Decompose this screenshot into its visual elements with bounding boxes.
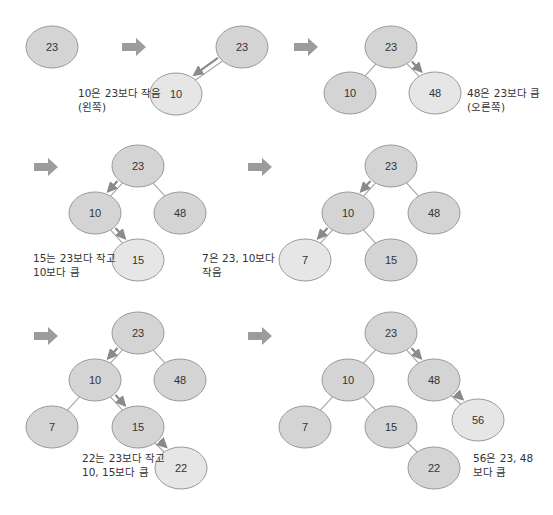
tree-edge	[110, 230, 122, 243]
node-value: 7	[49, 421, 55, 433]
search-path-arrow-icon	[456, 393, 463, 399]
tree-node: 7	[26, 406, 78, 448]
node-value: 23	[385, 160, 397, 172]
tree-edge	[363, 397, 375, 410]
tree-edge	[407, 64, 419, 77]
node-value: 48	[174, 374, 186, 386]
tree-node: 48	[154, 192, 206, 234]
node-value: 48	[429, 87, 441, 99]
step-arrow-icon	[248, 158, 272, 176]
node-value: 23	[236, 41, 248, 53]
tree-edge	[110, 183, 122, 196]
tree-edge	[408, 443, 417, 452]
step-caption: 7은 23, 10보다 작음	[202, 251, 275, 279]
tree-edge	[67, 397, 79, 410]
tree-edge	[363, 350, 375, 363]
node-value: 10	[342, 207, 354, 219]
node-value: 48	[428, 207, 440, 219]
tree-node: 15	[365, 239, 417, 281]
search-path-arrow-icon	[160, 441, 166, 447]
tree-edge	[320, 397, 332, 410]
tree-node: 23	[365, 145, 417, 187]
tree-node: 48	[154, 359, 206, 401]
step-caption: 10은 23보다 작음 (왼쪽)	[78, 86, 161, 114]
node-value: 15	[385, 254, 397, 266]
node-value: 10	[342, 374, 354, 386]
tree-node: 23	[365, 312, 417, 354]
step-caption: 15는 23보다 작고 10보다 큼	[33, 251, 116, 279]
tree-node: 22	[408, 447, 460, 489]
tree-node: 23	[26, 26, 78, 68]
tree-edge	[110, 397, 122, 410]
tree-node: 48	[408, 359, 460, 401]
node-value: 56	[472, 414, 484, 426]
node-value: 23	[46, 41, 58, 53]
node-value: 10	[170, 88, 182, 100]
tree-edge	[320, 230, 332, 243]
tree-node: 15	[365, 406, 417, 448]
tree-node: 7	[279, 239, 331, 281]
tree-edge	[153, 350, 165, 363]
step-caption: 22는 23보다 작고 10, 15보다 큼	[82, 451, 165, 479]
tree-node: 48	[408, 192, 460, 234]
step-arrow-icon	[34, 158, 58, 176]
node-value: 22	[428, 462, 440, 474]
tree-node: 10	[69, 359, 121, 401]
node-value: 22	[175, 462, 187, 474]
node-value: 23	[385, 41, 397, 53]
tree-node: 10	[69, 192, 121, 234]
step-arrow-icon	[34, 327, 58, 345]
bst-insertion-diagram: 2323102310482310481523104871523104871522…	[0, 0, 553, 515]
tree-node: 48	[409, 72, 461, 114]
node-value: 7	[302, 421, 308, 433]
tree-edge	[365, 64, 376, 76]
node-value: 48	[428, 374, 440, 386]
node-value: 15	[132, 254, 144, 266]
tree-edge	[363, 183, 375, 196]
node-value: 10	[344, 87, 356, 99]
tree-node: 56	[452, 399, 504, 441]
tree-edge	[406, 183, 418, 196]
node-value: 7	[302, 254, 308, 266]
tree-node: 23	[216, 26, 268, 68]
node-value: 10	[89, 207, 101, 219]
tree-edge	[153, 183, 165, 196]
tree-node: 10	[324, 72, 376, 114]
tree-node: 10	[322, 359, 374, 401]
node-value: 23	[132, 327, 144, 339]
node-value: 10	[89, 374, 101, 386]
node-value: 23	[385, 327, 397, 339]
tree-node: 10	[322, 192, 374, 234]
node-value: 15	[385, 421, 397, 433]
tree-edge	[110, 350, 122, 363]
step-arrow-icon	[294, 38, 318, 56]
step-caption: 48은 23보다 큼 (오른쪽)	[467, 86, 540, 114]
node-value: 15	[132, 421, 144, 433]
step-arrow-icon	[122, 38, 146, 56]
step-arrow-icon	[248, 327, 272, 345]
node-value: 23	[132, 160, 144, 172]
tree-node: 15	[112, 239, 164, 281]
node-value: 48	[174, 207, 186, 219]
tree-node: 15	[112, 406, 164, 448]
tree-node: 23	[112, 145, 164, 187]
tree-node: 7	[279, 406, 331, 448]
tree-edge	[363, 230, 375, 243]
tree-edge	[406, 350, 418, 363]
tree-node: 23	[365, 26, 417, 68]
tree-node: 23	[112, 312, 164, 354]
step-caption: 56은 23, 48 보다 큼	[473, 451, 533, 479]
